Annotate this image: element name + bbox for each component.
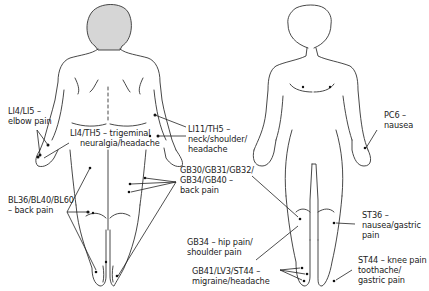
label-li4-li5: LI4/LI5 – elbow pain	[8, 106, 52, 126]
label-pc6: PC6 – nausea	[384, 110, 413, 130]
label-li11-th5: LI11/TH5 – neck/shoulder/ headache	[188, 124, 247, 154]
label-gb41-lv3-st44: GB41/LV3/ST44 – migraine/headache	[192, 266, 270, 286]
label-li4-th5: LI4/TH5 – trigeminal neuralgia/headache	[70, 128, 160, 148]
back-head	[87, 5, 131, 51]
label-st36: ST36 – nausea/gastric pain	[362, 210, 421, 240]
front-view-figure	[253, 5, 370, 286]
label-gb-back-pain: GB30/GB31/GB32/ GB34/GB40 – back pain	[180, 165, 254, 195]
front-head	[288, 5, 331, 48]
label-gb34: GB34 – hip pain/ shoulder pain	[187, 237, 253, 257]
label-bl-back-pain: BL36/BL40/BL60 – back pain	[8, 195, 74, 215]
label-st44: ST44 – knee pain toothache/ gastric pain	[358, 255, 427, 285]
acupuncture-points-diagram: LI4/LI5 – elbow pain LI4/TH5 – trigemina…	[0, 0, 429, 291]
